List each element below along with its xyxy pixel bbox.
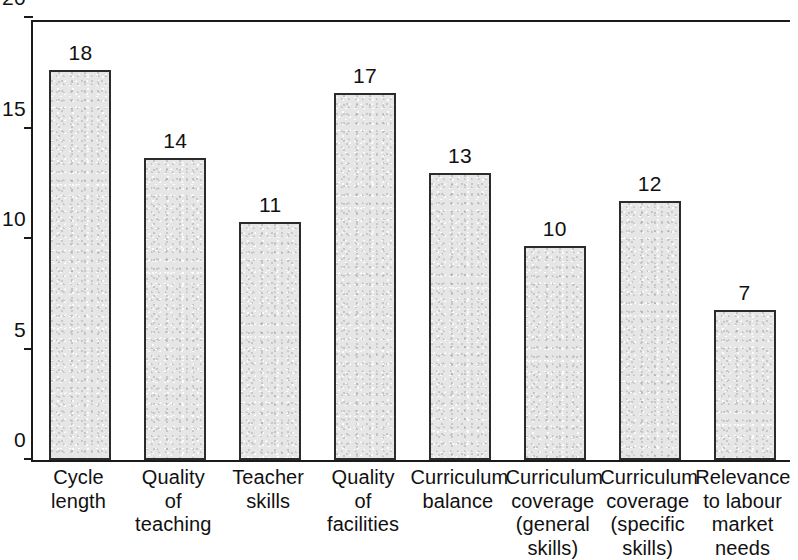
y-axis-tick-0 [24,458,33,460]
bar[interactable] [619,201,681,460]
bar-value-label: 11 [259,194,281,215]
plot-area: 05101520 181411171310127 [31,20,790,462]
y-axis-label-5: 5 [14,318,26,339]
x-axis-category-label: Cycle length [31,466,126,513]
bar[interactable] [334,93,396,460]
bar-slot: 13 [413,22,508,460]
bar[interactable] [429,173,491,460]
bar-value-label: 18 [68,42,92,63]
bar[interactable] [524,246,586,460]
bar-value-label: 7 [739,282,751,303]
x-axis-category-label: Quality of facilities [316,466,411,537]
x-axis-category-label: Curriculum coverage (general skills) [505,466,600,560]
x-axis-category-label: Teacher skills [221,466,316,513]
bar-value-label: 13 [448,145,472,166]
y-axis-tick-20 [24,16,33,18]
x-axis-category-label: Relevance to labour market needs [695,466,790,560]
bar-value-label: 12 [638,173,662,194]
bar[interactable] [239,222,301,460]
y-axis-label-0: 0 [14,429,26,450]
y-axis-tick-10 [24,237,33,239]
x-axis-category-label: Curriculum balance [411,466,506,513]
y-axis-tick-5 [24,348,33,350]
bar-slot: 17 [318,22,413,460]
bar-slot: 11 [223,22,318,460]
y-axis-label-20: 20 [2,0,26,8]
bar-value-label: 14 [163,130,187,151]
bar-slot: 7 [697,22,792,460]
bar[interactable] [144,158,206,460]
bar-slot: 10 [507,22,602,460]
bar-slot: 14 [128,22,223,460]
bar[interactable] [714,310,776,460]
bar[interactable] [49,70,111,460]
x-axis-category-label: Curriculum coverage (specific skills) [600,466,695,560]
bar-value-label: 10 [543,218,567,239]
bar-slot: 18 [33,22,128,460]
x-axis-category-label: Quality of teaching [126,466,221,537]
y-axis-tick-15 [24,127,33,129]
y-axis-label-10: 10 [2,208,26,229]
bar-value-label: 17 [353,65,377,86]
y-axis-label-15: 15 [2,97,26,118]
bar-slot: 12 [602,22,697,460]
